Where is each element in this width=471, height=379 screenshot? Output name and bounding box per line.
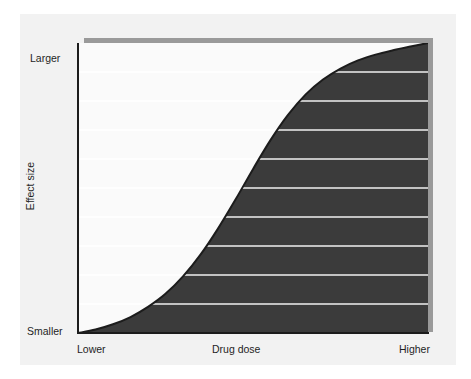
- y-axis-title: Effect size: [24, 136, 36, 236]
- y-axis-tick-label-top: Larger: [30, 52, 60, 64]
- x-axis-tick-label-right: Higher: [399, 343, 430, 355]
- y-axis-line: [77, 43, 79, 334]
- x-axis-line: [77, 332, 429, 334]
- plot-area: [78, 43, 428, 333]
- dose-response-chart-figure: Larger Smaller Effect size Lower Drug do…: [0, 0, 471, 379]
- x-axis-tick-label-left: Lower: [77, 343, 106, 355]
- x-axis-title: Drug dose: [212, 343, 260, 355]
- plot-svg: [78, 43, 428, 333]
- plot-frame-shadow-right: [428, 38, 433, 332]
- y-axis-tick-label-bottom: Smaller: [27, 325, 63, 337]
